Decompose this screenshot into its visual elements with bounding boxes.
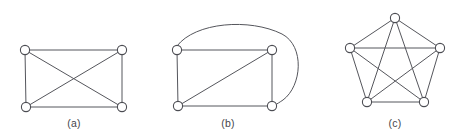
graph-node <box>267 101 276 110</box>
graph-node <box>267 45 276 54</box>
graph-edge <box>25 50 26 107</box>
graph-node <box>435 43 444 52</box>
graph-edge <box>178 50 272 106</box>
graph-node <box>117 45 126 54</box>
graph-node <box>390 13 399 22</box>
panel-c-nodes <box>345 13 444 106</box>
panel-c-edges <box>350 18 440 102</box>
graph-edge <box>367 18 395 102</box>
graph-node <box>21 102 30 111</box>
graph-node <box>172 45 181 54</box>
panel-b-edges <box>177 24 298 106</box>
panel-b-caption: (b) <box>221 117 234 129</box>
graph-edge <box>395 18 440 48</box>
graph-node <box>173 101 182 110</box>
graph-edge <box>350 18 395 48</box>
figure-panel: (a)(b)(c) <box>0 0 469 136</box>
panel-b: (b) <box>172 24 298 129</box>
panel-a-edges <box>25 50 122 107</box>
graph-node <box>419 97 428 106</box>
graph-node <box>362 97 371 106</box>
graph-panels-layer: (a)(b)(c) <box>20 13 444 129</box>
graph-node <box>20 45 29 54</box>
graph-edge <box>395 18 424 102</box>
graph-edge <box>367 48 440 102</box>
graph-edge-curved <box>177 24 298 105</box>
graph-figure-canvas: (a)(b)(c) <box>0 0 469 136</box>
graph-edge <box>350 48 424 102</box>
graph-edge <box>177 50 178 106</box>
panel-c-caption: (c) <box>389 117 402 129</box>
panel-a-caption: (a) <box>67 117 80 129</box>
panel-c: (c) <box>345 13 444 129</box>
panel-a: (a) <box>20 45 126 129</box>
graph-node <box>117 102 126 111</box>
graph-edge <box>424 48 440 102</box>
graph-node <box>345 43 354 52</box>
graph-edge <box>350 48 367 102</box>
